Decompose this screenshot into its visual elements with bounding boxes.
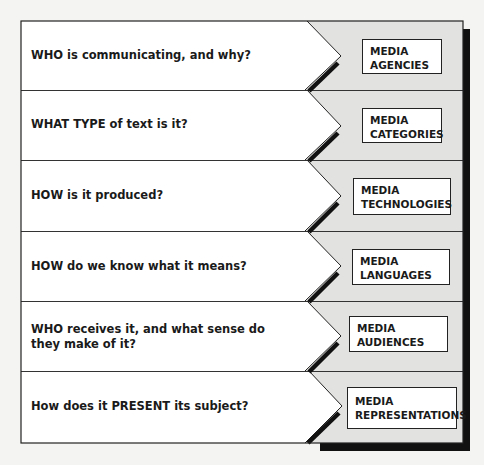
question-agencies: WHO is communicating, and why? xyxy=(31,48,301,63)
question-categories: WHAT TYPE of text is it? xyxy=(31,117,301,132)
media-concepts-diagram: WHO is communicating, and why? WHAT TYPE… xyxy=(0,0,484,465)
concept-line2: CATEGORIES xyxy=(370,127,441,141)
concept-line1: MEDIA xyxy=(370,113,441,127)
concept-box-languages: MEDIA LANGUAGES xyxy=(352,249,450,285)
right-drop-shadow xyxy=(463,29,470,451)
concept-line1: MEDIA xyxy=(357,321,447,335)
concept-line2: LANGUAGES xyxy=(360,268,449,282)
concept-line1: MEDIA xyxy=(361,183,450,197)
bottom-drop-shadow xyxy=(320,443,470,451)
concept-box-agencies: MEDIA AGENCIES xyxy=(362,39,442,74)
concept-box-representations: MEDIA REPRESENTATIONS xyxy=(347,387,457,429)
concept-line2: TECHNOLOGIES xyxy=(361,197,450,211)
question-audiences: WHO receives it, and what sense do they … xyxy=(31,322,276,352)
concept-line1: MEDIA xyxy=(370,44,441,58)
concept-box-categories: MEDIA CATEGORIES xyxy=(362,108,442,143)
concept-box-audiences: MEDIA AUDIENCES xyxy=(349,316,448,352)
concept-box-technologies: MEDIA TECHNOLOGIES xyxy=(353,178,451,215)
question-languages: HOW do we know what it means? xyxy=(31,259,301,274)
concept-line2: REPRESENTATIONS xyxy=(355,408,456,422)
concept-line1: MEDIA xyxy=(360,254,449,268)
concept-line1: MEDIA xyxy=(355,394,456,408)
concept-line2: AGENCIES xyxy=(370,58,441,72)
concept-line2: AUDIENCES xyxy=(357,335,447,349)
question-technologies: HOW is it produced? xyxy=(31,188,301,203)
question-representations: How does it PRESENT its subject? xyxy=(31,399,301,414)
